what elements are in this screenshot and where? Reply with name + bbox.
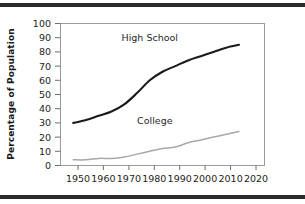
y-tick-label-60: 60 [39, 75, 51, 86]
chart-page: Percentage of Population 100 90 80 70 60 [0, 0, 305, 204]
x-tick-label-2000: 2000 [193, 173, 217, 184]
y-tick-label-80: 80 [39, 46, 51, 57]
series-annotation-college: College [137, 115, 173, 126]
y-tick-label-30: 30 [39, 117, 51, 128]
bottom-divider-rule [0, 195, 305, 199]
y-tick-label-100: 100 [33, 18, 51, 29]
x-tick-label-1990: 1990 [168, 173, 192, 184]
line-chart-figure: Percentage of Population 100 90 80 70 60 [0, 10, 305, 192]
x-axis-ticks: 1950 1960 1970 1980 1990 2000 2010 2020 [66, 166, 268, 185]
y-tick-label-90: 90 [39, 32, 51, 43]
x-tick-label-1970: 1970 [117, 173, 141, 184]
x-tick-label-2020: 2020 [244, 173, 268, 184]
series-annotation-high-school: High School [122, 32, 178, 43]
y-tick-label-40: 40 [39, 103, 51, 114]
y-axis-ticks: 100 90 80 70 60 50 40 30 20 10 0 [33, 18, 61, 171]
x-tick-label-1980: 1980 [142, 173, 166, 184]
x-tick-label-2010: 2010 [219, 173, 243, 184]
top-divider-rule [0, 3, 305, 7]
chart-canvas: Percentage of Population 100 90 80 70 60 [0, 10, 305, 192]
y-tick-label-0: 0 [45, 160, 51, 171]
y-tick-label-50: 50 [39, 89, 51, 100]
y-tick-label-20: 20 [39, 132, 51, 143]
x-tick-label-1950: 1950 [66, 173, 90, 184]
y-tick-label-70: 70 [39, 61, 51, 72]
y-tick-label-10: 10 [39, 146, 51, 157]
x-tick-label-1960: 1960 [91, 173, 115, 184]
y-axis-title: Percentage of Population [6, 28, 16, 159]
